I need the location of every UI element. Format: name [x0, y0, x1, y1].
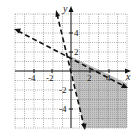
shaded-region: [69, 55, 127, 128]
x-tick-label: 2: [87, 73, 92, 83]
arrow-icon: [56, 10, 61, 17]
x-tick-label: -2: [46, 73, 54, 83]
x-axis-label: x: [125, 71, 131, 82]
x-tick-label: 4: [106, 73, 111, 83]
x-tick-label: -4: [28, 73, 36, 83]
y-axis-label: y: [62, 3, 68, 14]
y-tick-label: -2: [59, 85, 67, 95]
inequality-graph: x y -4 -2 2 4 4 2 -2 -4: [0, 0, 135, 134]
y-tick-label: 2: [74, 47, 79, 57]
y-axis-arrow-icon: [69, 6, 74, 12]
y-tick-label: -4: [59, 104, 67, 114]
arrow-icon: [81, 124, 87, 131]
y-tick-label: 4: [74, 28, 79, 38]
